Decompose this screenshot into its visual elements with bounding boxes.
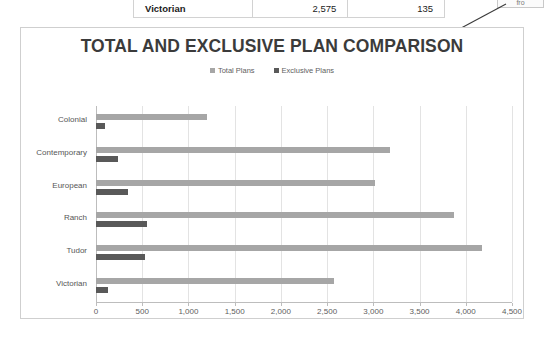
axis-tick	[466, 303, 467, 306]
chart-legend: Total Plans Exclusive Plans	[21, 66, 523, 75]
bar-group	[96, 212, 512, 228]
bar	[96, 123, 105, 129]
x-axis-tick-label: 3,000	[363, 307, 383, 316]
legend-swatch-icon	[210, 68, 215, 73]
bar-group	[96, 245, 512, 261]
category-label: Victorian	[16, 279, 87, 288]
axis-tick	[327, 303, 328, 306]
bar-group	[96, 147, 512, 163]
bar	[96, 287, 108, 293]
category-axis-labels: ColonialContemporaryEuropeanRanchTudorVi…	[21, 106, 92, 302]
x-axis-tick-label: 0	[94, 307, 98, 316]
bar	[96, 221, 147, 227]
axis-tick	[420, 303, 421, 306]
bar	[96, 156, 118, 162]
bar	[96, 114, 207, 120]
x-axis-tick-label: 2,500	[317, 307, 337, 316]
axis-tick	[142, 303, 143, 306]
axis-tick	[281, 303, 282, 306]
x-axis-tick-label: 1,500	[225, 307, 245, 316]
legend-label: Total Plans	[218, 66, 255, 75]
bar	[96, 254, 145, 260]
table-cell-category: Victorian	[134, 0, 253, 17]
chart-panel: TOTAL AND EXCLUSIVE PLAN COMPARISON Tota…	[20, 27, 524, 319]
category-label: Tudor	[16, 246, 87, 255]
bar	[96, 212, 454, 218]
category-label: Ranch	[16, 213, 87, 222]
axis-tick	[96, 303, 97, 306]
legend-item-total-plans: Total Plans	[210, 66, 255, 75]
legend-label: Exclusive Plans	[282, 66, 335, 75]
plot-area	[96, 106, 512, 302]
x-axis-tick-label: 2,000	[271, 307, 291, 316]
bar-group	[96, 180, 512, 196]
table-cell-exclusive: 135	[348, 0, 444, 17]
table-cell-total: 2,575	[253, 0, 349, 17]
x-axis-tick-labels: 05001,0001,5002,0002,5003,0003,5004,0004…	[21, 307, 525, 321]
axis-tick	[373, 303, 374, 306]
x-axis-tick-label: 3,500	[410, 307, 430, 316]
bar	[96, 180, 375, 186]
x-axis-tick-label: 1,000	[178, 307, 198, 316]
chart-title: TOTAL AND EXCLUSIVE PLAN COMPARISON	[21, 36, 523, 57]
bar	[96, 278, 334, 284]
bar-group	[96, 114, 512, 130]
gridline	[512, 106, 513, 302]
axis-tick	[512, 303, 513, 306]
bar-series-container	[96, 106, 512, 302]
axis-tick	[188, 303, 189, 306]
data-table-row: Victorian 2,575 135	[133, 0, 445, 18]
axis-tick	[235, 303, 236, 306]
x-axis-tick-label: 4,000	[456, 307, 476, 316]
callout-label: fro	[516, 0, 524, 7]
x-axis-tick-label: 4,500	[502, 307, 522, 316]
x-axis-tick-label: 500	[136, 307, 149, 316]
legend-item-exclusive-plans: Exclusive Plans	[274, 66, 335, 75]
bar-group	[96, 278, 512, 294]
bar	[96, 245, 482, 251]
category-label: Contemporary	[16, 148, 87, 157]
category-label: European	[16, 181, 87, 190]
category-label: Colonial	[16, 115, 87, 124]
bar	[96, 147, 390, 153]
bar	[96, 189, 128, 195]
legend-swatch-icon	[274, 68, 279, 73]
